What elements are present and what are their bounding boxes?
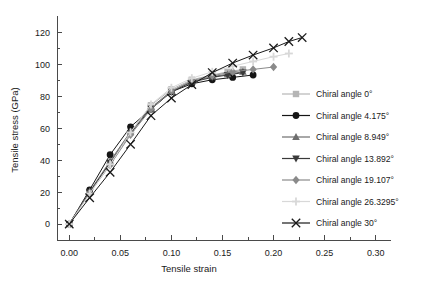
x-tick-label: 0.10 (163, 248, 181, 258)
y-tick-label: 120 (35, 28, 50, 38)
marker-cross (126, 140, 134, 148)
series-6 (65, 33, 306, 228)
y-tick-label: 0 (45, 219, 50, 229)
x-tick-label: 0.05 (112, 248, 130, 258)
marker-circle (293, 112, 300, 119)
y-tick-label: 40 (40, 156, 50, 166)
marker-diamond (270, 63, 277, 71)
tensile-stress-strain-chart: 0.000.050.100.150.200.250.30020406080100… (0, 0, 446, 286)
legend-label: Chiral angle 30° (316, 218, 377, 228)
x-axis-title: Tensile strain (161, 263, 216, 274)
legend-item[interactable]: Chiral angle 19.107° (282, 175, 394, 185)
marker-diamond (250, 65, 257, 73)
diamond-icon (250, 65, 257, 73)
marker-plus (292, 198, 300, 206)
legend-label: Chiral angle 13.892° (316, 154, 394, 164)
x-axis-ticks: 0.000.050.100.150.200.250.30 (60, 235, 384, 258)
circle-icon (293, 112, 300, 119)
diamond-icon (292, 176, 299, 184)
x-tick-label: 0.30 (367, 248, 385, 258)
series-line (69, 69, 243, 224)
x-tick-label: 0.15 (214, 248, 232, 258)
series-2 (65, 68, 246, 227)
marker-cross (269, 44, 277, 52)
legend-label: Chiral angle 0° (316, 89, 372, 99)
legend-item[interactable]: Chiral angle 13.892° (282, 154, 394, 164)
x-tick-label: 0.25 (316, 248, 334, 258)
marker-square (293, 91, 299, 97)
y-tick-label: 60 (40, 124, 50, 134)
diamond-icon (270, 63, 277, 71)
series-line (69, 53, 289, 224)
marker-plus (285, 49, 293, 57)
series-1 (66, 72, 257, 228)
marker-cross (285, 37, 293, 45)
legend-item[interactable]: Chiral angle 8.949° (282, 132, 389, 142)
legend-label: Chiral angle 26.3295° (316, 197, 399, 207)
y-tick-label: 80 (40, 92, 50, 102)
marker-cross (298, 33, 306, 41)
series-line (69, 72, 243, 224)
legend-label: Chiral angle 4.175° (316, 111, 389, 121)
x-tick-label: 0.00 (60, 248, 78, 258)
legend-label: Chiral angle 8.949° (316, 132, 389, 142)
series-3 (65, 70, 246, 228)
marker-cross (106, 168, 114, 176)
x-tick-label: 0.20 (265, 248, 283, 258)
square-icon (293, 91, 299, 97)
chart-figure: 0.000.050.100.150.200.250.30020406080100… (0, 0, 446, 286)
legend-item[interactable]: Chiral angle 30° (282, 218, 377, 228)
legend-label: Chiral angle 19.107° (316, 175, 394, 185)
legend-item[interactable]: Chiral angle 4.175° (282, 111, 389, 121)
legend-item[interactable]: Chiral angle 26.3295° (282, 197, 399, 207)
series-line (69, 38, 302, 225)
series-0 (66, 66, 246, 227)
marker-diamond (292, 176, 299, 184)
y-tick-label: 100 (35, 60, 50, 70)
series-line (69, 73, 243, 224)
marker-plus (270, 53, 278, 61)
y-tick-label: 20 (40, 188, 50, 198)
y-axis-ticks: 020406080100120 (35, 28, 62, 229)
legend: Chiral angle 0°Chiral angle 4.175°Chiral… (282, 89, 399, 228)
y-axis-title: Tensile stress (GPa) (9, 87, 20, 173)
legend-item[interactable]: Chiral angle 0° (282, 89, 372, 99)
series-5 (65, 49, 293, 228)
